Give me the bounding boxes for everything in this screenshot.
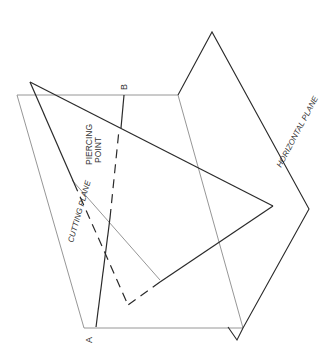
line-ab xyxy=(96,95,124,327)
label-point-b: B xyxy=(119,84,129,90)
line-ab-hidden xyxy=(110,130,119,218)
label-horizontal-plane: HORIZONTAL PLANE xyxy=(275,94,319,169)
triangle-edge-top xyxy=(30,82,273,206)
line-ab-lower-visible xyxy=(96,218,110,327)
triangle-edge-left-visible xyxy=(30,82,74,183)
triangle-edge-right xyxy=(160,206,273,282)
cutting-plane-right-edge xyxy=(178,95,243,328)
label-piercing-point-line2: POINT xyxy=(93,137,103,163)
oblique-triangle xyxy=(30,82,273,305)
horizontal-plane xyxy=(178,32,309,340)
label-point-a: A xyxy=(84,337,94,343)
horizontal-plane-outline xyxy=(178,32,309,328)
line-ab-upper-visible xyxy=(121,95,124,128)
triangle-edge-bottom-hidden xyxy=(128,282,160,305)
diagram-canvas: A B PIERCING POINT CUTTING PLANE HORIZON… xyxy=(0,0,319,362)
horizontal-plane-corner-notch xyxy=(228,327,243,340)
